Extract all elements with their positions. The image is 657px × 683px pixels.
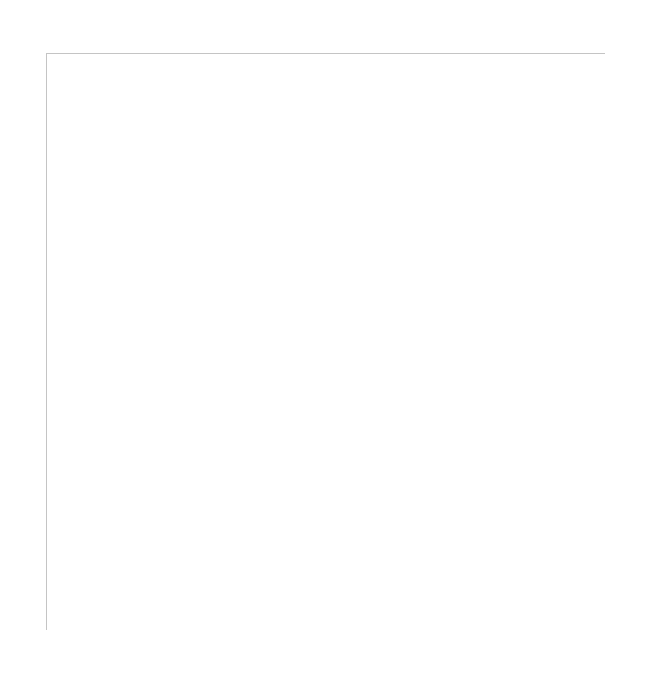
- coordinate-grid: [46, 53, 605, 630]
